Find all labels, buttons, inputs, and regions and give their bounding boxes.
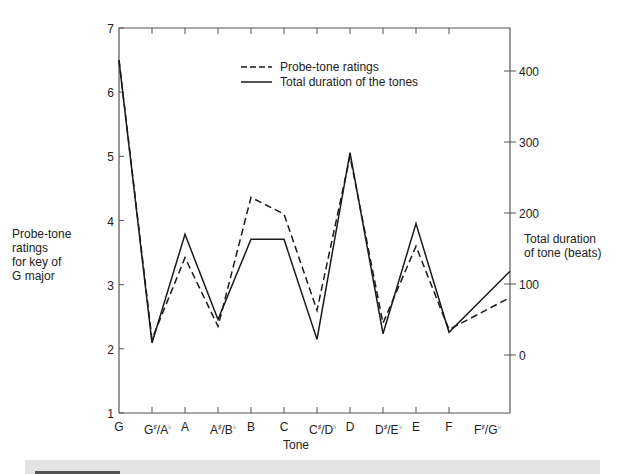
y2-tick-label: 400 — [519, 65, 539, 79]
x-tick-label: G — [114, 420, 123, 434]
x-tick-label: G♯/A♭ — [144, 420, 171, 437]
left-axis-title: Probe-tone ratings for key of G major — [12, 227, 122, 283]
y-tick-label: 6 — [107, 86, 114, 100]
y-tick-label: 2 — [107, 343, 114, 357]
legend-label: Total duration of the tones — [280, 75, 418, 89]
right-axis-title: Total duration of tone (beats) — [524, 232, 623, 260]
x-tick-label: C♯/D♭ — [309, 420, 336, 437]
x-tick-label: C — [280, 420, 289, 434]
y-tick-label: 7 — [107, 22, 114, 36]
duration-line — [119, 60, 510, 343]
x-tick-label: E — [412, 420, 420, 434]
x-tick-label: A♯/B♭ — [210, 420, 236, 437]
series-lines — [119, 60, 510, 343]
legend: Probe-tone ratingsTotal duration of the … — [241, 60, 418, 89]
y2-tick-label: 100 — [519, 278, 539, 292]
y-tick-label: 5 — [107, 150, 114, 164]
probe-tone-line — [119, 60, 510, 339]
y-tick-label: 1 — [107, 407, 114, 421]
x-tick-label: D♯/E♭ — [375, 420, 402, 437]
x-tick-label: A — [181, 420, 189, 434]
x-tick-label: D — [346, 420, 355, 434]
y2-tick-label: 300 — [519, 136, 539, 150]
x-tick-label: F♯/G♭ — [474, 420, 501, 437]
legend-label: Probe-tone ratings — [280, 60, 379, 74]
x-axis-title: Tone — [283, 438, 309, 452]
x-tick-label: F — [445, 420, 452, 434]
y2-tick-label: 0 — [519, 349, 526, 363]
y2-tick-label: 200 — [519, 207, 539, 221]
x-tick-label: B — [247, 420, 255, 434]
